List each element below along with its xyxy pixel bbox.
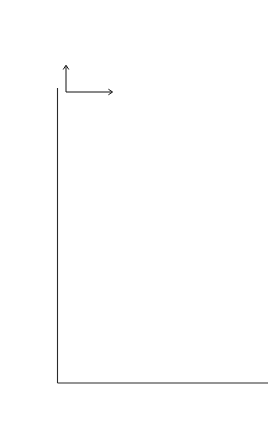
scale-bar-horizontal-arrow — [66, 89, 113, 95]
scale-bar-vertical-arrow — [63, 65, 69, 92]
probability-plot-svg — [0, 0, 279, 436]
scale-bar-group — [63, 65, 112, 95]
figure-container — [0, 0, 279, 436]
axes-group — [58, 88, 269, 383]
